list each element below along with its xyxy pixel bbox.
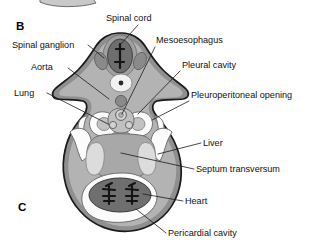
label-pleural-cavity: Pleural cavity bbox=[182, 60, 237, 70]
panel-letter-c: C bbox=[18, 201, 26, 213]
bronchus-right bbox=[125, 121, 132, 128]
label-lung: Lung bbox=[14, 88, 34, 98]
label-mesoesophagus: Mesoesophagus bbox=[156, 35, 223, 45]
label-septum-transversum: Septum transversum bbox=[196, 164, 280, 174]
liver-left-lobe bbox=[86, 142, 104, 175]
diagram-canvas: Spinal cord Spinal ganglion Mesoesophagu… bbox=[0, 0, 325, 245]
label-liver: Liver bbox=[203, 138, 223, 148]
label-aorta: Aorta bbox=[31, 62, 54, 72]
heart-tube bbox=[89, 178, 151, 212]
embryo-cross-section-figure: Spinal cord Spinal ganglion Mesoesophagu… bbox=[0, 0, 325, 245]
notochord bbox=[119, 81, 124, 86]
leader-pleuroperitoneal-opening bbox=[152, 101, 189, 120]
label-spinal-ganglion: Spinal ganglion bbox=[12, 40, 74, 50]
panel-letter-b: B bbox=[16, 20, 24, 32]
label-pericardial-cavity: Pericardial cavity bbox=[168, 228, 237, 238]
dorsal-aorta bbox=[115, 95, 126, 106]
label-heart: Heart bbox=[185, 196, 208, 206]
label-pleuroperitoneal-opening: Pleuroperitoneal opening bbox=[191, 90, 292, 100]
cropped-figure-above bbox=[40, 0, 96, 7]
label-spinal-cord: Spinal cord bbox=[106, 13, 152, 23]
bronchus-left bbox=[109, 121, 116, 128]
embryo-body bbox=[53, 33, 189, 231]
